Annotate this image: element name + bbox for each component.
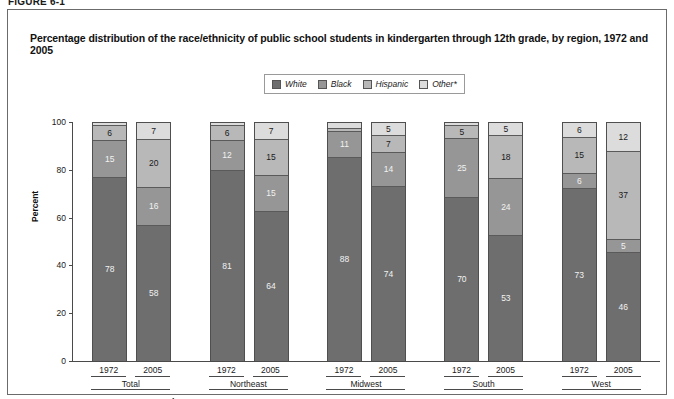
x-tick-year: 1972 (562, 363, 597, 377)
bar-segment-white: 58 (137, 225, 170, 361)
stacked-bar[interactable]: 161281 (210, 122, 245, 361)
x-group-south: 19722005South (444, 363, 523, 399)
segment-value: 18 (501, 153, 510, 162)
x-group-midwest: 19722005Midwest (326, 363, 405, 399)
stacked-bar[interactable]: 1237546 (606, 122, 641, 361)
stacked-bar[interactable]: 7201658 (136, 122, 171, 361)
segment-value: 5 (503, 125, 508, 134)
bar-segment-black: 15 (255, 175, 288, 211)
x-tick-year: 1972 (91, 363, 126, 377)
x-group-rule (562, 389, 641, 390)
segment-value: 53 (501, 294, 510, 303)
legend-label: Hispanic (376, 79, 409, 89)
x-group-northeast: 19722005Northeast (209, 363, 288, 399)
bar-group-west: 6156731237546 (562, 122, 641, 361)
figure-panel: Percentage distribution of the race/ethn… (7, 9, 667, 395)
chart-legend: WhiteBlackHispanicOther* (264, 74, 465, 94)
bar-column[interactable]: 161281 (210, 122, 245, 361)
bar-column[interactable]: 571474 (371, 122, 406, 361)
bar-column[interactable]: 5182453 (488, 122, 523, 361)
x-group-label: Northeast (230, 377, 267, 389)
stacked-bar[interactable]: 7151564 (254, 122, 289, 361)
segment-value: 88 (340, 255, 349, 264)
x-group-label: Midwest (350, 377, 381, 389)
stacked-bar[interactable]: 5182453 (488, 122, 523, 361)
segment-value: 74 (384, 270, 393, 279)
figure-title: Percentage distribution of the race/ethn… (30, 32, 660, 56)
x-tick-year: 2005 (488, 363, 523, 377)
segment-value: 14 (384, 165, 393, 174)
figure-label: FIGURE 6-1 (8, 0, 65, 7)
bar-column[interactable]: 21188 (327, 122, 362, 361)
bar-segment-white: 81 (211, 170, 244, 361)
figure-page: FIGURE 6-1 Percentage distribution of th… (0, 0, 674, 399)
x-group-label: Total (122, 377, 140, 389)
bar-segment-black: 5 (607, 239, 640, 252)
bar-segment-black: 25 (445, 138, 478, 197)
legend-entry: Black (318, 79, 352, 89)
bar-segment-other: 7 (137, 123, 170, 139)
x-tick-year: 2005 (606, 363, 641, 377)
stacked-bar[interactable]: 161578 (92, 122, 127, 361)
x-axis-labels: 19722005Total19722005Northeast19722005Mi… (72, 363, 660, 399)
segment-value: 81 (222, 262, 231, 271)
bar-segment-hispanic: 37 (607, 151, 640, 239)
bar-segment-other: 7 (255, 123, 288, 139)
y-tick-label: 20 (57, 308, 73, 318)
segment-value: 16 (149, 202, 158, 211)
bar-segment-other: 5 (372, 123, 405, 135)
stacked-bar[interactable]: 615673 (562, 122, 597, 361)
legend-label: White (285, 79, 307, 89)
bar-segment-hispanic: 6 (93, 125, 126, 140)
segment-value: 12 (222, 151, 231, 160)
bar-segment-black: 12 (211, 140, 244, 169)
y-tick-label: 80 (57, 165, 73, 175)
bar-group-total: 1615787201658 (92, 122, 171, 361)
segment-value: 15 (105, 155, 114, 164)
bar-group-northeast: 1612817151564 (210, 122, 289, 361)
bar-segment-hispanic: 5 (445, 125, 478, 138)
segment-value: 78 (105, 265, 114, 274)
bar-segment-white: 53 (489, 235, 522, 361)
y-axis-label: Percent (30, 191, 40, 222)
segment-value: 70 (457, 275, 466, 284)
bar-group-south: 1525705182453 (444, 122, 523, 361)
legend-label: Other* (432, 79, 457, 89)
stacked-bar[interactable]: 21188 (327, 122, 362, 361)
segment-value: 58 (149, 289, 158, 298)
legend-label: Black (331, 79, 352, 89)
segment-value: 64 (266, 282, 275, 291)
y-tick-label: 100 (52, 117, 73, 127)
segment-value: 6 (225, 129, 230, 138)
stacked-bar[interactable]: 152570 (444, 122, 479, 361)
bar-segment-hispanic: 15 (563, 137, 596, 173)
y-tick-label: 40 (57, 260, 73, 270)
bar-segment-hispanic: 18 (489, 135, 522, 178)
bar-segment-black: 16 (137, 187, 170, 225)
bar-column[interactable]: 1237546 (606, 122, 641, 361)
legend-swatch-icon (318, 80, 327, 89)
x-group-rule (326, 389, 405, 390)
bar-group-midwest: 21188571474 (327, 122, 406, 361)
legend-swatch-icon (272, 80, 281, 89)
segment-value: 7 (269, 127, 274, 136)
bar-segment-white: 78 (93, 177, 126, 361)
bar-column[interactable]: 152570 (444, 122, 479, 361)
bar-column[interactable]: 161578 (92, 122, 127, 361)
segment-value: 6 (577, 126, 582, 135)
bar-segment-black: 6 (563, 173, 596, 188)
y-tick-label: 60 (57, 213, 73, 223)
stacked-bar[interactable]: 571474 (371, 122, 406, 361)
x-tick-year: 2005 (135, 363, 170, 377)
bar-segment-white: 64 (255, 211, 288, 361)
bar-column[interactable]: 615673 (562, 122, 597, 361)
bar-column[interactable]: 7201658 (136, 122, 171, 361)
bar-segment-white: 46 (607, 252, 640, 361)
bar-segment-other: 12 (607, 123, 640, 151)
segment-value: 7 (386, 140, 391, 149)
x-tick-year: 2005 (370, 363, 405, 377)
bar-column[interactable]: 7151564 (254, 122, 289, 361)
segment-value: 37 (619, 191, 628, 200)
x-group-rule (444, 389, 523, 390)
segment-value: 15 (575, 151, 584, 160)
